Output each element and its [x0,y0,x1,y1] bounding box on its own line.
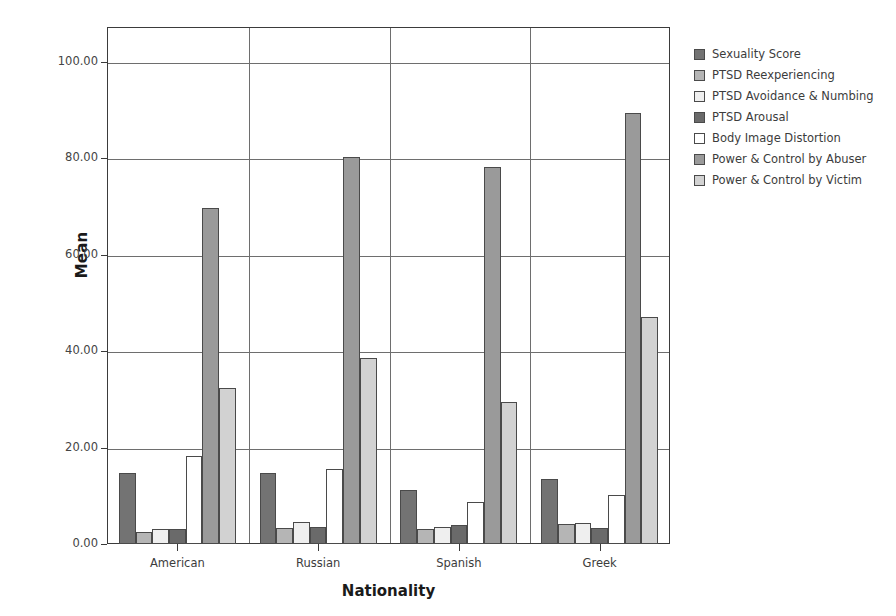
x-axis-tick-labels: AmericanRussianSpanishGreek [107,556,670,576]
gridline-horizontal [108,352,669,353]
gridline-horizontal [108,63,669,64]
legend-swatch-icon [694,175,705,186]
plot-area [107,27,670,544]
legend-item: PTSD Reexperiencing [694,65,894,86]
x-tick-mark [318,544,319,551]
y-tick-label: 0.00 [38,538,98,550]
x-tick-label: Spanish [436,556,481,570]
x-axis-title: Nationality [107,582,670,600]
x-tick-label: American [150,556,205,570]
legend-item: Body Image Distortion [694,128,894,149]
legend-item: Power & Control by Abuser [694,149,894,170]
legend-item: PTSD Avoidance & Numbing [694,86,894,107]
gridline-horizontal [108,159,669,160]
legend-label: Body Image Distortion [712,133,841,145]
y-axis-tick-labels: 0.0020.0040.0060.0080.00100.00 [38,0,98,616]
legend-item: PTSD Arousal [694,107,894,128]
y-tick-label: 80.00 [38,152,98,164]
legend-swatch-icon [694,91,705,102]
legend-swatch-icon [694,154,705,165]
gridline-horizontal [108,256,669,257]
legend-label: Power & Control by Victim [712,175,862,187]
legend-label: Power & Control by Abuser [712,154,866,166]
gridline-vertical [390,28,391,543]
legend-label: PTSD Reexperiencing [712,70,835,82]
x-tick-label: Greek [583,556,617,570]
legend-item: Power & Control by Victim [694,170,894,191]
legend-swatch-icon [694,112,705,123]
y-tick-label: 20.00 [38,442,98,454]
x-axis-tick-marks [107,544,670,552]
legend-item: Sexuality Score [694,44,894,65]
legend-label: PTSD Arousal [712,112,789,124]
legend-swatch-icon [694,133,705,144]
gridline-vertical [249,28,250,543]
x-tick-mark [459,544,460,551]
legend-swatch-icon [694,49,705,60]
x-tick-mark [177,544,178,551]
bar-chart: Mean 0.0020.0040.0060.0080.00100.00 Amer… [0,0,896,616]
legend-label: PTSD Avoidance & Numbing [712,91,874,103]
gridline-horizontal [108,449,669,450]
chart-legend: Sexuality ScorePTSD ReexperiencingPTSD A… [694,44,894,191]
y-tick-label: 40.00 [38,345,98,357]
legend-swatch-icon [694,70,705,81]
x-tick-label: Russian [296,556,340,570]
y-tick-label: 60.00 [38,249,98,261]
legend-label: Sexuality Score [712,49,801,61]
x-tick-mark [600,544,601,551]
gridline-vertical [530,28,531,543]
y-tick-label: 100.00 [38,56,98,68]
